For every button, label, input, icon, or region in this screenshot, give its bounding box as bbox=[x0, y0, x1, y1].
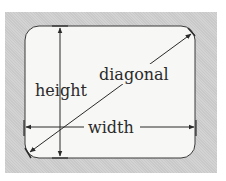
width-label: width bbox=[88, 118, 134, 137]
screen-diagram: height diagonal width bbox=[0, 0, 226, 181]
diagonal-label: diagonal bbox=[99, 65, 169, 84]
height-label: height bbox=[35, 81, 87, 100]
